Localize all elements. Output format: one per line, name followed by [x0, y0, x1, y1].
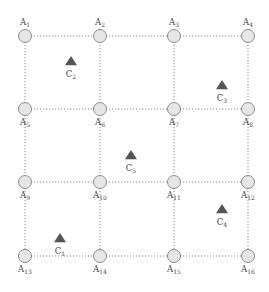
label: C1 [55, 246, 65, 257]
triangle-icon [216, 204, 228, 213]
label: A14 [92, 264, 107, 275]
label: C4 [217, 217, 228, 228]
node-circle-icon [168, 30, 181, 43]
node-a16: A16 [240, 250, 255, 276]
node-circle-icon [242, 250, 255, 263]
node-a8: A8 [242, 103, 255, 129]
node-a6: A6 [94, 103, 107, 129]
marker-c3: C3 [216, 80, 228, 104]
label: C3 [217, 93, 228, 104]
node-a5: A5 [19, 103, 32, 129]
node-circle-icon [94, 103, 107, 116]
nodes: A1A2A3A4A5A6A7A8A9A10A11A12A13A14A15A16 [17, 17, 255, 275]
triangle-icon [216, 80, 228, 89]
node-a9: A9 [19, 176, 32, 202]
label: C2 [66, 69, 77, 80]
node-circle-icon [94, 250, 107, 263]
node-circle-icon [94, 30, 107, 43]
node-a7: A7 [168, 103, 181, 129]
node-a1: A1 [19, 17, 32, 43]
node-a10: A10 [92, 176, 107, 202]
label: A7 [168, 117, 179, 128]
label: A4 [242, 17, 253, 28]
label: A6 [94, 117, 105, 128]
node-a15: A15 [166, 250, 181, 276]
node-circle-icon [242, 30, 255, 43]
node-a2: A2 [94, 17, 107, 43]
node-circle-icon [19, 103, 32, 116]
label: A3 [168, 17, 179, 28]
node-a13: A13 [17, 250, 32, 276]
label: A5 [19, 117, 30, 128]
label: A8 [242, 117, 253, 128]
marker-c4: C4 [216, 204, 228, 228]
label: A1 [19, 17, 30, 28]
grid-network-diagram: A1A2A3A4A5A6A7A8A9A10A11A12A13A14A15A16 … [0, 0, 269, 292]
label: C5 [126, 163, 137, 174]
node-circle-icon [94, 176, 107, 189]
node-circle-icon [19, 30, 32, 43]
marker-c2: C2 [65, 56, 77, 80]
node-a11: A11 [166, 176, 181, 202]
label: A9 [19, 190, 30, 201]
edges [25, 36, 248, 256]
marker-c1: C1 [54, 233, 66, 257]
node-a14: A14 [92, 250, 107, 276]
node-circle-icon [168, 250, 181, 263]
triangle-icon [54, 233, 66, 242]
node-a12: A12 [240, 176, 255, 202]
triangle-icon [65, 56, 77, 65]
label: A2 [94, 17, 105, 28]
marker-c5: C5 [125, 150, 137, 174]
node-a3: A3 [168, 17, 181, 43]
node-circle-icon [242, 176, 255, 189]
node-a4: A4 [242, 17, 255, 43]
node-circle-icon [19, 250, 32, 263]
label: A13 [17, 264, 32, 275]
node-circle-icon [168, 103, 181, 116]
label: A16 [240, 264, 255, 275]
label: A15 [166, 264, 181, 275]
node-circle-icon [242, 103, 255, 116]
node-circle-icon [168, 176, 181, 189]
node-circle-icon [19, 176, 32, 189]
markers: C1C2C3C4C5 [54, 56, 228, 257]
triangle-icon [125, 150, 137, 159]
